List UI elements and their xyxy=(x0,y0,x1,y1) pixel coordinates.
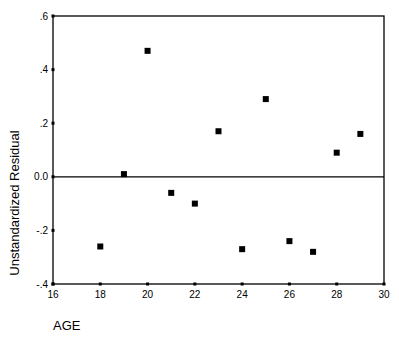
y-tick-mark xyxy=(52,15,55,18)
x-tick-label: 20 xyxy=(142,289,154,300)
data-point xyxy=(216,128,222,134)
data-point xyxy=(97,243,103,249)
x-tick-mark xyxy=(52,283,55,286)
y-tick-mark xyxy=(52,68,55,71)
y-axis-title: Unstandardized Residual xyxy=(7,130,22,275)
y-tick-label: .2 xyxy=(40,118,49,129)
data-point xyxy=(145,48,151,54)
y-tick-mark xyxy=(52,122,55,125)
data-point xyxy=(286,238,292,244)
x-tick-label: 30 xyxy=(378,289,390,300)
x-tick-label: 18 xyxy=(95,289,107,300)
y-tick-mark xyxy=(52,229,55,232)
y-tick-label: -.4 xyxy=(36,279,48,290)
data-point xyxy=(263,96,269,102)
x-axis-ticks: 1618202224262830 xyxy=(47,283,390,301)
x-tick-label: 24 xyxy=(237,289,249,300)
y-tick-label: .4 xyxy=(40,64,49,75)
data-point xyxy=(192,201,198,207)
data-points xyxy=(97,48,363,255)
y-tick-label: 0.0 xyxy=(34,171,48,182)
data-point xyxy=(121,171,127,177)
x-tick-mark xyxy=(335,283,338,286)
x-tick-mark xyxy=(383,283,386,286)
data-point xyxy=(310,249,316,255)
y-tick-label: .6 xyxy=(40,11,49,22)
y-axis-ticks: -.4-.20.0.2.4.6 xyxy=(34,11,54,290)
x-tick-mark xyxy=(99,283,102,286)
y-tick-label: -.2 xyxy=(36,225,48,236)
x-tick-mark xyxy=(146,283,149,286)
x-tick-mark xyxy=(193,283,196,286)
x-tick-label: 22 xyxy=(189,289,201,300)
x-tick-label: 16 xyxy=(47,289,59,300)
x-tick-mark xyxy=(288,283,291,286)
x-axis-title: AGE xyxy=(53,318,81,333)
data-point xyxy=(357,131,363,137)
x-tick-mark xyxy=(241,283,244,286)
data-point xyxy=(168,190,174,196)
x-tick-label: 28 xyxy=(331,289,343,300)
data-point xyxy=(239,246,245,252)
x-tick-label: 26 xyxy=(284,289,296,300)
residual-scatter-plot: -.4-.20.0.2.4.6 1618202224262830 Unstand… xyxy=(0,0,399,340)
y-tick-mark xyxy=(52,175,55,178)
data-point xyxy=(334,150,340,156)
